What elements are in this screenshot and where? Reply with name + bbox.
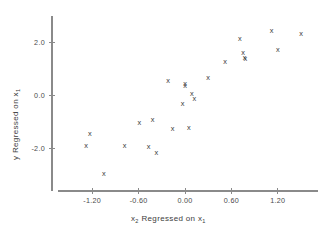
data-point-marker: x	[192, 94, 196, 103]
data-point-marker: x	[238, 34, 242, 43]
data-point-marker: x	[187, 123, 191, 132]
data-point-marker: x	[123, 141, 127, 150]
y-axis-title-text: y Regressed on x1	[11, 89, 21, 160]
data-point-marker: x	[270, 26, 274, 35]
data-point-marker: x	[183, 81, 187, 90]
y-axis-title-tail-sub: 1	[15, 89, 21, 92]
data-point-marker: x	[243, 54, 247, 63]
y-axis-title-rest: Regressed on	[11, 99, 20, 156]
x-tick-label: 1.20	[270, 196, 285, 205]
y-axis-title: y Regressed on x1	[11, 89, 21, 160]
y-axis-title-tail-base: x	[11, 92, 20, 99]
x-tick-label: 0.00	[177, 196, 192, 205]
data-point-marker: x	[276, 45, 280, 54]
data-point-marker: x	[299, 29, 303, 38]
y-tick-label: -2.0	[31, 144, 45, 153]
y-tick-label: 0.0	[34, 91, 45, 100]
data-point-marker: x	[102, 169, 106, 178]
data-point-marker: x	[155, 148, 159, 157]
data-point-marker: x	[151, 115, 155, 124]
x-tick-label: -1.20	[83, 196, 101, 205]
y-tick-label: 2.0	[34, 38, 45, 47]
data-point-marker: x	[138, 118, 142, 127]
data-point-marker: x	[223, 57, 227, 66]
scatter-plot-figure: 2.00.0-2.0 -1.20-0.600.000.601.20 xxxxxx…	[0, 0, 323, 232]
x-axis-title-text: x2 Regressed on x1	[131, 214, 206, 224]
data-point-marker: x	[206, 73, 210, 82]
data-point-marker: x	[88, 129, 92, 138]
data-point-marker: x	[181, 99, 185, 108]
data-point-marker: x	[166, 76, 170, 85]
x-axis-title-tail-base: x	[195, 214, 202, 223]
x-axis-title-tail-sub: 1	[202, 218, 205, 224]
x-axis-title-rest: Regressed on	[139, 214, 196, 223]
data-point-marker: x	[147, 142, 151, 151]
data-points-layer: xxxxxxxxxxxxxxxxxxxxxxxxx	[84, 26, 303, 177]
axes-group	[52, 16, 318, 191]
data-point-marker: x	[171, 124, 175, 133]
data-point-marker: x	[84, 141, 88, 150]
plot-canvas: 2.00.0-2.0 -1.20-0.600.000.601.20 xxxxxx…	[0, 0, 323, 232]
x-tick-label: -0.60	[130, 196, 148, 205]
x-tick-label: 0.60	[224, 196, 239, 205]
x-axis-title: x2 Regressed on x1	[131, 214, 206, 224]
